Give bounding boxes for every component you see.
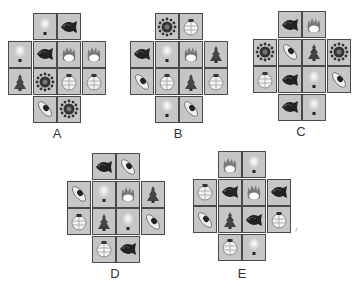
pod-icon (280, 42, 300, 62)
net-cell (8, 68, 32, 95)
pod-icon (35, 99, 55, 119)
lightbulb-icon (304, 70, 324, 90)
net-cell (242, 151, 266, 178)
fish-icon (280, 15, 300, 35)
flame-icon (304, 15, 324, 35)
fish-icon (269, 182, 289, 202)
lightbulb-icon (157, 44, 177, 64)
lightbulb-icon (10, 44, 30, 64)
net-cell (218, 206, 242, 233)
net-cell (155, 68, 179, 95)
net-cell (155, 13, 179, 40)
net-cell (130, 68, 154, 95)
net-cell (33, 13, 57, 40)
tree-icon (10, 72, 30, 92)
sun-icon (157, 17, 177, 37)
pod-icon (132, 72, 152, 92)
flame-icon (59, 44, 79, 64)
net-cell (267, 206, 291, 233)
option-label-e: E (232, 266, 252, 281)
net-cell (302, 11, 326, 38)
lantern-icon (69, 212, 89, 232)
flame-icon (84, 44, 104, 64)
net-cell (179, 96, 203, 123)
flame-icon (244, 182, 264, 202)
lightbulb-icon (35, 17, 55, 37)
net-cell (130, 41, 154, 68)
stray-mark (295, 227, 298, 232)
net-cell (278, 11, 302, 38)
net-cell (253, 66, 277, 93)
net-cell (57, 13, 81, 40)
tree-icon (143, 184, 163, 204)
net-cell (92, 208, 116, 235)
fish-icon (59, 17, 79, 37)
net-cell (267, 179, 291, 206)
net-cell (327, 66, 351, 93)
net-cell (82, 68, 106, 95)
net-cell (57, 96, 81, 123)
tree-icon (181, 72, 201, 92)
lantern-icon (269, 210, 289, 230)
net-cell (116, 153, 140, 180)
net-cell (204, 41, 228, 68)
net-cell (278, 39, 302, 66)
lantern-icon (157, 72, 177, 92)
lightbulb-icon (244, 237, 264, 257)
tree-icon (220, 210, 240, 230)
net-cell (179, 41, 203, 68)
pod-icon (195, 210, 215, 230)
net-cell (218, 151, 242, 178)
lightbulb-icon (157, 99, 177, 119)
net-cell (242, 234, 266, 261)
net-cell (302, 66, 326, 93)
net-cell (33, 41, 57, 68)
lightbulb-icon (94, 184, 114, 204)
pod-icon (181, 99, 201, 119)
lantern-icon (94, 239, 114, 259)
fish-icon (280, 70, 300, 90)
pod-icon (118, 157, 138, 177)
sun-icon (35, 72, 55, 92)
sun-icon (255, 42, 275, 62)
net-cell (302, 94, 326, 121)
lantern-icon (181, 17, 201, 37)
net-cell (179, 68, 203, 95)
lantern-icon (195, 182, 215, 202)
lantern-icon (255, 70, 275, 90)
net-cell (204, 68, 228, 95)
net-cell (92, 236, 116, 263)
net-cell (116, 208, 140, 235)
pod-icon (329, 70, 349, 90)
option-label-c: C (291, 124, 311, 139)
fish-icon (118, 239, 138, 259)
net-cell (242, 179, 266, 206)
fish-icon (220, 182, 240, 202)
net-cell (8, 41, 32, 68)
net-cell (179, 13, 203, 40)
net-cell (155, 41, 179, 68)
sun-icon (59, 99, 79, 119)
net-cell (218, 234, 242, 261)
lantern-icon (59, 72, 79, 92)
net-cell (33, 68, 57, 95)
option-label-a: A (47, 126, 67, 141)
sun-icon (329, 42, 349, 62)
flame-icon (181, 44, 201, 64)
tree-icon (304, 42, 324, 62)
lantern-icon (206, 72, 226, 92)
net-cell (278, 66, 302, 93)
net-cell (92, 153, 116, 180)
fish-icon (244, 210, 264, 230)
tree-icon (94, 212, 114, 232)
pod-icon (143, 212, 163, 232)
lantern-icon (220, 237, 240, 257)
net-cell (141, 181, 165, 208)
lightbulb-icon (244, 155, 264, 175)
fish-icon (35, 44, 55, 64)
pod-icon (69, 184, 89, 204)
net-cell (116, 236, 140, 263)
fish-icon (94, 157, 114, 177)
flame-icon (220, 155, 240, 175)
fish-icon (132, 44, 152, 64)
